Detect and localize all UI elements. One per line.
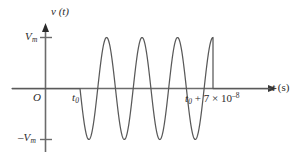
neg-vm-tick-label: –Vm	[18, 132, 36, 145]
v-axis	[42, 23, 49, 152]
t-axis-label: t (s)	[272, 82, 289, 93]
waveform-figure	[0, 0, 295, 158]
t-start-label: t0	[72, 92, 79, 105]
origin-label: O	[33, 92, 41, 103]
v-axis-label: v (t)	[51, 6, 69, 17]
vm-tick-label: Vm	[25, 31, 37, 44]
v-axis-arrow-icon	[42, 23, 49, 32]
t-end-label: t0 + 7 × 10–8	[185, 92, 240, 106]
